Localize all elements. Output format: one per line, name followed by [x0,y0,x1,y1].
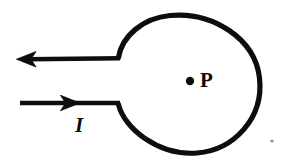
upper-lead-wire [28,58,120,59]
point-p-dot-icon [186,77,194,85]
figure-canvas: P I [0,0,284,164]
current-label: I [75,115,83,136]
scan-speck [270,139,273,142]
circular-loop-diagram [0,0,284,164]
point-p-label: P [200,70,213,91]
